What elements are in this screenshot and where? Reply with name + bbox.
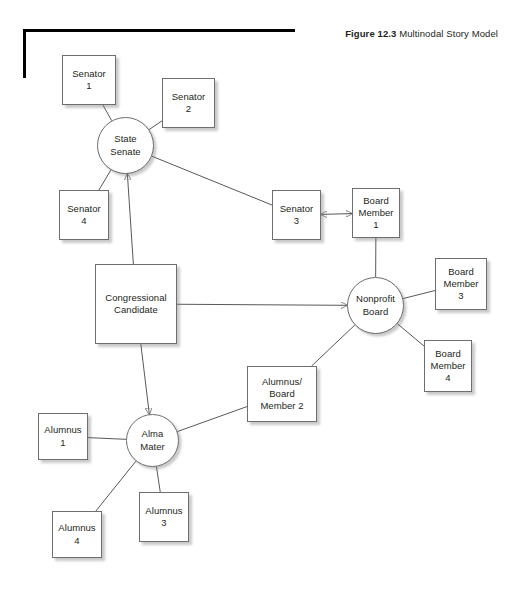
node-senator3: Senator3 bbox=[272, 190, 321, 240]
edge-board4-to-nonprofit bbox=[397, 324, 424, 346]
node-alumnus3: Alumnus3 bbox=[139, 492, 189, 542]
node-alumnus4: Alumnus4 bbox=[52, 511, 102, 558]
edge-senator1-to-state-senate bbox=[103, 105, 112, 121]
edge-alum-board2-to-alma-mater bbox=[177, 407, 247, 432]
edge-alumnus4-to-alma-mater bbox=[96, 461, 136, 511]
node-label: AlmaMater bbox=[138, 428, 167, 452]
node-board4: BoardMember4 bbox=[424, 340, 472, 392]
edge-board3-to-nonprofit bbox=[403, 291, 435, 299]
node-label: BoardMember1 bbox=[356, 195, 395, 232]
node-alumnus1: Alumnus1 bbox=[38, 413, 88, 460]
node-label: Alumnus/BoardMember 2 bbox=[258, 376, 305, 413]
node-alma-mater: AlmaMater bbox=[126, 414, 179, 467]
edge-cong-cand-to-state-senate bbox=[127, 174, 133, 264]
node-senator4: Senator4 bbox=[59, 190, 109, 240]
edge-alumnus3-to-alma-mater bbox=[156, 467, 160, 492]
figure-container: Figure 12.3 Multinodal Story Model Senat… bbox=[0, 0, 510, 590]
node-nonprofit: NonprofitBoard bbox=[347, 277, 404, 334]
edge-cong-cand-to-nonprofit bbox=[177, 304, 347, 305]
edge-cong-cand-to-alma-mater bbox=[141, 344, 149, 414]
node-label: Senator2 bbox=[170, 91, 208, 115]
node-board3: BoardMember3 bbox=[435, 258, 487, 310]
edge-senator3-to-board1 bbox=[321, 214, 352, 215]
node-cong-cand: CongressionalCandidate bbox=[95, 264, 177, 344]
node-label: NonprofitBoard bbox=[354, 293, 397, 317]
node-state-senate: StateSenate bbox=[97, 117, 154, 174]
edge-alum-board2-to-nonprofit bbox=[312, 325, 355, 366]
node-label: CongressionalCandidate bbox=[103, 292, 168, 316]
node-label: StateSenate bbox=[108, 133, 142, 157]
edge-senator4-to-state-senate bbox=[99, 170, 111, 190]
node-senator1: Senator1 bbox=[62, 55, 116, 105]
node-label: Senator1 bbox=[70, 68, 108, 92]
node-board1: BoardMember1 bbox=[352, 188, 400, 238]
node-alum-board2: Alumnus/BoardMember 2 bbox=[247, 366, 317, 422]
node-label: Alumnus1 bbox=[42, 424, 83, 448]
node-label: Senator3 bbox=[278, 203, 316, 227]
node-label: BoardMember3 bbox=[441, 266, 480, 303]
edge-alumnus1-to-alma-mater bbox=[88, 438, 126, 440]
node-label: Alumnus3 bbox=[143, 505, 184, 529]
node-senator2: Senator2 bbox=[162, 78, 215, 128]
node-label: BoardMember4 bbox=[428, 348, 467, 385]
edge-senator2-to-state-senate bbox=[149, 121, 162, 130]
edge-state-senate-to-senator3 bbox=[152, 156, 272, 205]
node-label: Senator4 bbox=[65, 203, 103, 227]
node-label: Alumnus4 bbox=[56, 522, 97, 546]
